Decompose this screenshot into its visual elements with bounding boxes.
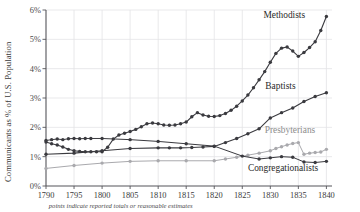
data-point: [291, 156, 294, 159]
data-point: [50, 142, 53, 145]
data-point: [89, 137, 92, 140]
data-point: [218, 114, 221, 117]
data-point: [72, 137, 75, 140]
data-point: [173, 123, 176, 126]
data-point: [100, 137, 103, 140]
x-axis-tick-label: 1810: [150, 191, 167, 200]
data-point: [269, 149, 272, 152]
data-point: [313, 40, 316, 43]
data-point: [280, 111, 283, 114]
x-axis-tick-label: 1840: [318, 191, 335, 200]
data-point: [285, 45, 288, 48]
data-point: [50, 138, 53, 141]
data-point: [72, 164, 75, 167]
data-point: [269, 61, 272, 64]
data-point: [213, 115, 216, 118]
data-point: [56, 137, 59, 140]
data-point: [302, 51, 305, 54]
data-point: [274, 52, 277, 55]
data-point: [44, 153, 47, 156]
y-axis-tick-label: 5%: [30, 35, 41, 44]
x-axis-tick-label: 1820: [206, 191, 223, 200]
data-point: [179, 146, 182, 149]
x-axis-tick-label: 1815: [178, 191, 195, 200]
data-point: [235, 105, 238, 108]
data-point: [156, 140, 159, 143]
data-point: [44, 167, 47, 170]
x-axis-tick-label: 1805: [122, 191, 139, 200]
data-point: [224, 157, 227, 160]
data-point: [269, 156, 272, 159]
data-point: [123, 132, 126, 135]
data-point: [44, 139, 47, 142]
y-axis-title: Communicants as % of U.S. Population: [3, 41, 13, 182]
x-axis-tick-label: 1825: [234, 191, 251, 200]
data-point: [274, 147, 277, 150]
data-point: [291, 142, 294, 145]
data-point: [100, 161, 103, 164]
data-point: [61, 145, 64, 148]
data-point: [291, 106, 294, 109]
data-point: [302, 153, 305, 156]
data-point: [162, 123, 165, 126]
data-point: [297, 55, 300, 58]
data-point: [134, 128, 137, 131]
data-point: [67, 137, 70, 140]
data-point: [313, 151, 316, 154]
data-point: [140, 125, 143, 128]
chart-container: 0%1%2%3%4%5%6%17901795180018051810181518…: [0, 0, 360, 212]
data-point: [263, 70, 266, 73]
data-point: [257, 157, 260, 160]
data-point: [128, 147, 131, 150]
data-point: [128, 138, 131, 141]
data-point: [117, 133, 120, 136]
data-point: [128, 160, 131, 163]
data-point: [179, 122, 182, 125]
data-point: [285, 143, 288, 146]
data-point: [257, 151, 260, 154]
data-point: [308, 151, 311, 154]
data-point: [168, 124, 171, 127]
data-point: [84, 137, 87, 140]
data-point: [313, 95, 316, 98]
data-point: [190, 115, 193, 118]
data-point: [201, 145, 204, 148]
data-point: [241, 99, 244, 102]
data-point: [72, 151, 75, 154]
data-point: [213, 159, 216, 162]
data-point: [280, 145, 283, 148]
x-axis-tick-label: 1790: [38, 191, 55, 200]
data-point: [257, 78, 260, 81]
data-point: [325, 91, 328, 94]
data-point: [257, 127, 260, 130]
data-point: [145, 122, 148, 125]
data-point: [100, 149, 103, 152]
data-point: [185, 159, 188, 162]
y-axis-tick-label: 3%: [30, 94, 41, 103]
data-point: [291, 49, 294, 52]
y-axis-tick-label: 2%: [30, 123, 41, 132]
chart-caption: points indicate reported totals or reaso…: [48, 202, 193, 209]
data-point: [106, 146, 109, 149]
data-point: [61, 138, 64, 141]
series-label-baptists: Baptists: [265, 81, 296, 91]
x-axis-tick-label: 1795: [66, 191, 83, 200]
data-point: [56, 143, 59, 146]
data-point: [151, 121, 154, 124]
data-point: [190, 146, 193, 149]
data-point: [252, 86, 255, 89]
x-axis-tick-label: 1830: [262, 191, 279, 200]
data-point: [319, 150, 322, 153]
data-point: [196, 111, 199, 114]
y-axis-tick-label: 1%: [30, 153, 41, 162]
series-label-congregationalists: Congregationalists: [248, 163, 319, 173]
data-point: [201, 113, 204, 116]
data-point: [269, 116, 272, 119]
data-point: [297, 141, 300, 144]
data-point: [224, 112, 227, 115]
data-point: [156, 159, 159, 162]
data-point: [319, 29, 322, 32]
data-point: [280, 46, 283, 49]
data-point: [302, 100, 305, 103]
data-point: [229, 109, 232, 112]
